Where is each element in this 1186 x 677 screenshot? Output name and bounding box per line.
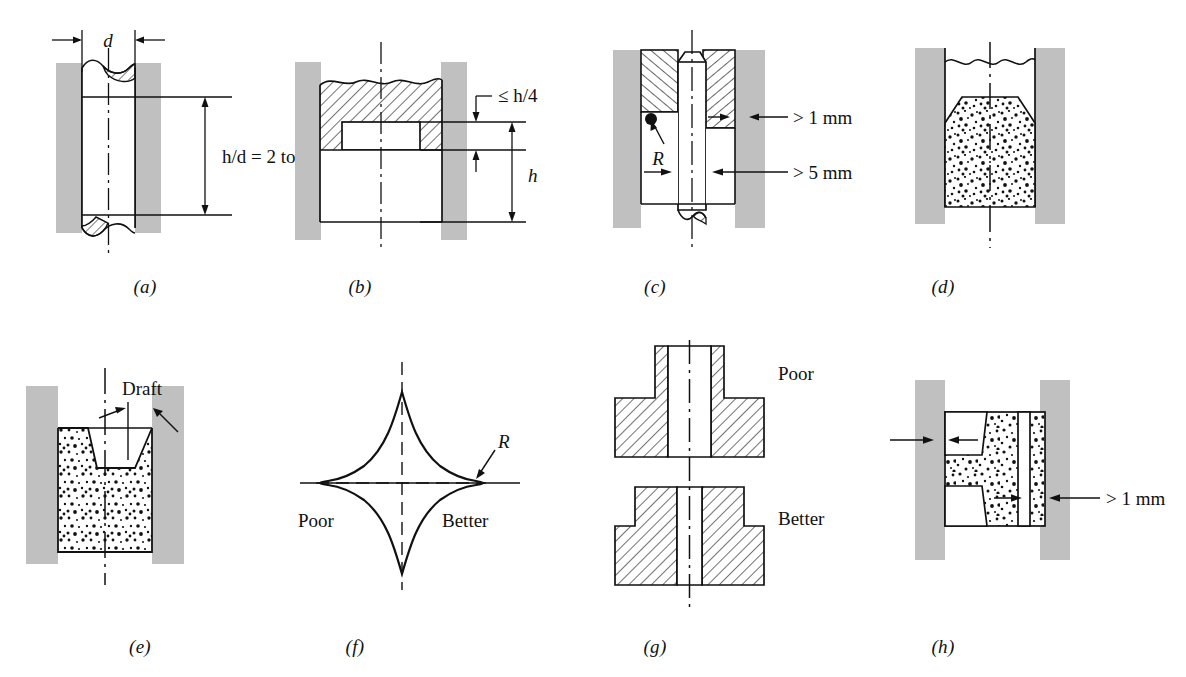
panel-a-drawing: d h/d = 2 to 4 [0, 0, 290, 300]
poor-label: Poor [298, 510, 335, 531]
panel-e: Draft (e) [0, 340, 290, 660]
panel-c: R > 1 mm > 5 mm (c) [590, 0, 890, 300]
figure-root: d h/d = 2 to 4 (a) [0, 0, 1186, 677]
notch-upper-left [945, 412, 987, 455]
die-wall-right [441, 62, 467, 240]
height-label: h [528, 165, 538, 186]
diameter-label: d [103, 30, 113, 51]
step-height-label: ≤ h/4 [498, 85, 538, 106]
better-label: Better [778, 508, 825, 529]
panel-h: > 1 mm (h) [890, 340, 1186, 660]
panel-d-caption: (d) [795, 276, 1091, 298]
panel-g-caption: (g) [505, 636, 805, 658]
panel-h-caption: (h) [795, 636, 1091, 658]
panel-g-drawing: Poor Better [590, 340, 890, 660]
dim-arrow-h [509, 122, 516, 222]
panel-c-drawing: R > 1 mm > 5 mm [590, 0, 890, 300]
radius-leader [476, 450, 495, 479]
die-wall-right [735, 50, 765, 228]
radius-label: R [497, 431, 510, 452]
dim-arrow-d-right [135, 37, 165, 44]
panel-a: d h/d = 2 to 4 (a) [0, 0, 290, 300]
panel-f: R Poor Better (f) [290, 340, 590, 660]
poor-left-solid [615, 346, 668, 457]
poor-right-solid [711, 346, 764, 457]
panel-b: ≤ h/4 h (b) [290, 0, 590, 300]
die-upper-left-hatched [641, 50, 678, 112]
die-wall-left [915, 380, 945, 560]
better-left-solid [615, 487, 677, 585]
die-wall-left [915, 48, 945, 224]
draft-label: Draft [122, 378, 163, 399]
min-wall-1mm-label: > 1 mm [1106, 488, 1165, 509]
panel-d: (d) [890, 0, 1186, 300]
thin-wall-slot [1018, 412, 1030, 526]
notch-lower-left [945, 486, 987, 526]
draft-angle-arrow [99, 407, 126, 418]
dim-arrow-h4 [473, 96, 493, 122]
panel-f-drawing: R Poor Better [290, 340, 590, 660]
dim-arrow-h-vertical [202, 97, 209, 215]
panel-e-drawing: Draft [0, 340, 290, 660]
die-wall-left [295, 62, 321, 240]
rod-break-fill [693, 212, 706, 224]
panel-b-caption: (b) [210, 276, 510, 298]
die-wall-left [56, 63, 82, 233]
panel-b-drawing: ≤ h/4 h [290, 0, 590, 300]
panel-c-caption: (c) [505, 276, 805, 298]
better-label: Better [442, 510, 489, 531]
die-wall-right [1035, 48, 1065, 224]
dim-arrow-d-left [52, 37, 82, 44]
lower-cavity-right [706, 128, 735, 204]
panel-f-caption: (f) [205, 636, 505, 658]
die-wall-left [26, 386, 58, 564]
radius-label: R [651, 148, 664, 169]
dim-arrow-h-small [473, 150, 480, 172]
panel-h-drawing: > 1 mm [890, 340, 1186, 660]
poor-label: Poor [778, 363, 815, 384]
panel-g: Poor Better (g) [590, 340, 890, 660]
better-right-solid [702, 487, 764, 585]
die-wall-right [135, 63, 161, 233]
min-wall-1mm-label: > 1 mm [793, 107, 852, 128]
panel-d-drawing [890, 0, 1186, 300]
min-wall-5mm-label: > 5 mm [793, 162, 852, 183]
die-wall-left [613, 50, 641, 228]
